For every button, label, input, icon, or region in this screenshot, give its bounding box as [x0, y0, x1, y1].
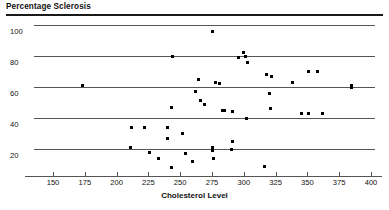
x-tick-mark-150 [53, 172, 54, 176]
data-point [211, 30, 214, 33]
data-point [268, 92, 271, 95]
data-point [203, 103, 206, 106]
x-tick-mark-300 [244, 172, 245, 176]
y-tick-label-80: 80 [10, 58, 18, 67]
data-point [291, 81, 294, 84]
data-point [245, 117, 248, 120]
data-point [129, 146, 132, 149]
data-point [316, 70, 319, 73]
data-point [300, 112, 303, 115]
data-point [307, 70, 310, 73]
y-tick-label-40: 40 [10, 120, 18, 129]
x-tick-mark-275 [212, 172, 213, 176]
y-tick-label-20: 20 [10, 151, 18, 160]
data-point [170, 106, 173, 109]
data-point [218, 82, 221, 85]
data-point [212, 157, 215, 160]
x-tick-label-400: 400 [365, 178, 378, 187]
x-tick-label-325: 325 [269, 178, 282, 187]
y-tick-label-100: 100 [10, 27, 23, 36]
x-tick-label-200: 200 [110, 178, 123, 187]
x-tick-label-300: 300 [237, 178, 250, 187]
x-tick-label-150: 150 [47, 178, 60, 187]
gridline-y-20 [34, 149, 375, 150]
data-point [214, 81, 217, 84]
x-tick-mark-375 [339, 172, 340, 176]
x-axis-title: Cholesterol Level [0, 191, 389, 200]
data-point [148, 151, 151, 154]
x-tick-mark-325 [276, 172, 277, 176]
gridline-y-100 [34, 25, 375, 26]
x-tick-mark-400 [371, 172, 372, 176]
x-tick-label-225: 225 [142, 178, 155, 187]
x-tick-label-175: 175 [78, 178, 91, 187]
x-axis-line [25, 176, 382, 177]
data-point [230, 148, 233, 151]
data-point [263, 165, 266, 168]
data-point [81, 84, 84, 87]
x-tick-mark-250 [180, 172, 181, 176]
data-point [166, 137, 169, 140]
x-tick-mark-200 [117, 172, 118, 176]
data-point [194, 90, 197, 93]
data-point [130, 126, 133, 129]
data-point [184, 152, 187, 155]
x-tick-mark-350 [307, 172, 308, 176]
data-point [171, 55, 174, 58]
data-point [307, 112, 310, 115]
x-tick-label-350: 350 [301, 178, 314, 187]
data-point [246, 61, 249, 64]
plot-area: 10080604020 1501752002252502753003253503… [0, 0, 389, 210]
data-point [321, 112, 324, 115]
gridline-y-60 [34, 87, 375, 88]
data-point [166, 126, 169, 129]
data-point [143, 126, 146, 129]
data-point [170, 166, 173, 169]
data-point [244, 55, 247, 58]
data-point [270, 75, 273, 78]
data-point [350, 86, 353, 89]
data-point [199, 99, 202, 102]
data-point [197, 78, 200, 81]
data-point [157, 157, 160, 160]
x-tick-mark-175 [85, 172, 86, 176]
x-tick-label-275: 275 [206, 178, 219, 187]
data-point [265, 73, 268, 76]
gridline-y-40 [34, 118, 375, 119]
data-point [211, 149, 214, 152]
x-tick-label-250: 250 [174, 178, 187, 187]
data-point [231, 140, 234, 143]
data-point [231, 110, 234, 113]
gridline-y-80 [34, 56, 375, 57]
data-point [191, 160, 194, 163]
scatter-chart-figure: Percentage Sclerosis 10080604020 1501752… [0, 0, 389, 210]
x-tick-mark-225 [148, 172, 149, 176]
data-point [223, 109, 226, 112]
data-point [181, 132, 184, 135]
y-tick-label-60: 60 [10, 89, 18, 98]
x-tick-label-375: 375 [333, 178, 346, 187]
data-point [269, 107, 272, 110]
data-point [237, 56, 240, 59]
